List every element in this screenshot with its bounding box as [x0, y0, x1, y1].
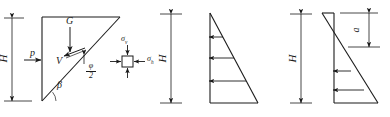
- panel1-failure-wedge: [4, 17, 145, 101]
- panel3-height-label: H: [287, 55, 298, 63]
- panel3-crack-depth-label: a: [351, 28, 361, 33]
- sigma-vertical-label: σv: [121, 35, 127, 45]
- sigma-h-subscript: h: [151, 59, 154, 65]
- sigma-horizontal-label: σh: [147, 55, 154, 65]
- panel3-pressure-envelope: [322, 13, 378, 103]
- panel1-phi-half-label: φ 2: [86, 62, 96, 81]
- panel1-failure-plane: [42, 17, 120, 101]
- panel1-beta-arc: [53, 92, 56, 101]
- panel1-stress-element: [110, 45, 145, 78]
- panel1-weight-label: G: [66, 16, 73, 26]
- panel1-pressure-label: p: [30, 48, 35, 58]
- panel2-triangular-pressure: [160, 13, 258, 103]
- phi-denominator: 2: [86, 72, 96, 80]
- panel1-beta-label: β: [57, 80, 62, 90]
- engineering-figure: H p G V β φ 2 σv σh H H a: [0, 0, 390, 117]
- stress-element-square: [122, 56, 133, 67]
- panel2-height-label: H: [157, 55, 168, 63]
- panel1-height-label: H: [0, 55, 9, 63]
- phi-numerator: φ: [86, 62, 96, 70]
- panel3-pressure-with-crack: [290, 13, 380, 103]
- sigma-v-subscript: v: [125, 39, 127, 45]
- panel1-resultant-label: V: [56, 56, 62, 66]
